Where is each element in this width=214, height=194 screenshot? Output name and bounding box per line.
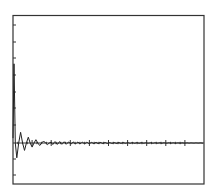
chart-canvas xyxy=(0,0,214,194)
response-line xyxy=(13,64,203,158)
plot-frame xyxy=(13,16,204,185)
